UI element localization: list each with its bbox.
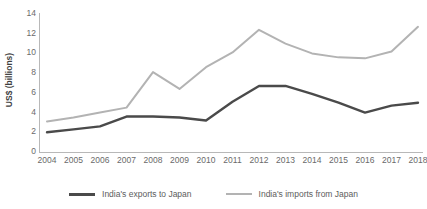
y-tick-label: 4 xyxy=(31,108,36,117)
y-tick-label: 12 xyxy=(27,29,36,38)
y-tick-label: 8 xyxy=(31,68,36,77)
legend-item-label: India's imports from Japan xyxy=(259,189,358,199)
x-tick-label: 2015 xyxy=(329,155,348,166)
legend-color-swatch xyxy=(226,193,252,195)
y-tick-label: 14 xyxy=(27,9,36,18)
y-tick-label: 6 xyxy=(31,88,36,97)
series-line xyxy=(47,27,418,122)
x-axis-line xyxy=(39,152,423,153)
line-chart: US$ (billions) 14121086420 2004200520062… xyxy=(0,0,427,209)
plot-lines xyxy=(40,14,422,152)
x-tick-label: 2011 xyxy=(223,155,241,166)
y-axis-tick-labels: 14121086420 xyxy=(17,0,39,160)
x-tick-label: 2006 xyxy=(91,155,110,166)
x-tick-label: 2004 xyxy=(38,155,57,166)
x-tick-label: 2012 xyxy=(250,155,269,166)
y-tick-label: 10 xyxy=(27,48,36,57)
x-tick-label: 2014 xyxy=(303,155,322,166)
y-tick-label: 2 xyxy=(31,127,36,136)
plot-area xyxy=(40,14,422,152)
y-axis-title: US$ (billions) xyxy=(0,0,18,160)
x-tick-label: 2005 xyxy=(64,155,83,166)
x-tick-label: 2009 xyxy=(170,155,189,166)
y-tick-label: 0 xyxy=(31,147,36,156)
x-tick-label: 2013 xyxy=(276,155,295,166)
x-tick-label: 2008 xyxy=(144,155,163,166)
x-axis-tick-labels: 2004200520062007200820092010201120122013… xyxy=(40,155,422,169)
legend-color-swatch xyxy=(69,193,95,196)
x-tick-label: 2010 xyxy=(197,155,216,166)
y-axis-title-label: US$ (billions) xyxy=(4,53,14,107)
legend-item[interactable]: India's imports from Japan xyxy=(226,189,358,199)
chart-legend: India's exports to JapanIndia's imports … xyxy=(0,186,427,202)
x-tick-label: 2017 xyxy=(382,155,401,166)
x-tick-label: 2016 xyxy=(356,155,375,166)
x-tick-label: 2018 xyxy=(409,155,427,166)
x-tick-label: 2007 xyxy=(117,155,136,166)
legend-item-label: India's exports to Japan xyxy=(102,189,192,199)
series-line xyxy=(47,86,418,132)
legend-item[interactable]: India's exports to Japan xyxy=(69,189,192,199)
